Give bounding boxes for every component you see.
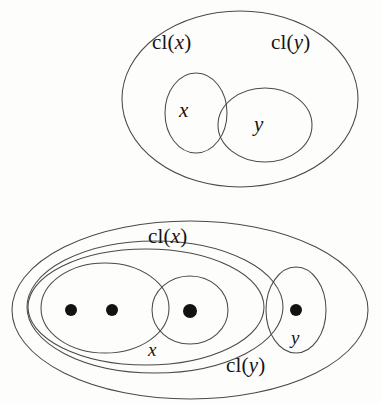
bottom-label-x: x bbox=[148, 340, 156, 359]
diagram-canvas bbox=[0, 0, 381, 403]
bottom-point-4 bbox=[290, 304, 302, 316]
bottom-point-3 bbox=[183, 304, 197, 318]
top-label-cl-x-suffix: ) bbox=[184, 30, 191, 54]
bottom-label-cl-y-suffix: ) bbox=[258, 353, 265, 377]
top-label-cl-x-prefix: cl( bbox=[152, 30, 175, 54]
bottom-label-cl-y-prefix: cl( bbox=[226, 353, 249, 377]
set-theory-closure-diagram: cl(x) cl(y) x y cl(x) cl(y) x y bbox=[0, 0, 381, 403]
bottom-diagram-group bbox=[12, 221, 368, 399]
top-x-circle bbox=[165, 73, 227, 153]
top-label-cl-y-prefix: cl( bbox=[271, 30, 294, 54]
top-label-y: y bbox=[254, 114, 263, 135]
bottom-label-cl-x-suffix: ) bbox=[180, 224, 187, 248]
top-label-cl-x: cl(x) bbox=[152, 32, 191, 53]
top-label-cl-y: cl(y) bbox=[271, 32, 310, 53]
bottom-label-cl-y: cl(y) bbox=[226, 355, 265, 376]
bottom-label-cl-x-prefix: cl( bbox=[148, 224, 171, 248]
bottom-point-1 bbox=[65, 304, 77, 316]
top-y-ellipse bbox=[218, 88, 312, 162]
bottom-label-cl-x-var: x bbox=[171, 224, 181, 248]
bottom-x-ellipse bbox=[28, 249, 264, 365]
top-label-x: x bbox=[179, 100, 188, 121]
top-label-cl-x-var: x bbox=[175, 30, 185, 54]
bottom-label-cl-y-var: y bbox=[249, 353, 259, 377]
top-label-cl-y-var: y bbox=[294, 30, 304, 54]
top-label-cl-y-suffix: ) bbox=[303, 30, 310, 54]
bottom-label-cl-x: cl(x) bbox=[148, 226, 187, 247]
bottom-point-2 bbox=[106, 304, 118, 316]
bottom-label-y: y bbox=[291, 328, 299, 347]
